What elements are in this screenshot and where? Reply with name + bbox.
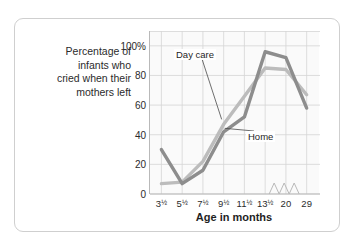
y-tick-label: 60 <box>135 100 146 111</box>
x-axis-title: Age in months <box>149 211 319 223</box>
figure-card: Percentage of infants who cried when the… <box>14 18 340 232</box>
y-axis-caption-line-1: Percentage of <box>23 45 131 59</box>
series-label-day-care: Day care <box>174 49 216 60</box>
y-tick-label: 20 <box>135 159 146 170</box>
x-tick-label: 29 <box>301 198 312 209</box>
y-axis-caption: Percentage of infants who cried when the… <box>23 45 131 99</box>
x-tick-label: 7½ <box>197 198 208 209</box>
x-tick-label: 3½ <box>156 198 167 209</box>
y-tick-label: 80 <box>135 70 146 81</box>
y-axis-caption-line-3: cried when their <box>23 72 131 86</box>
x-tick-label: 13½ <box>257 198 273 209</box>
y-axis-caption-line-4: mothers left <box>23 86 131 100</box>
series-label-home: Home <box>246 131 275 142</box>
x-tick-label: 5½ <box>177 198 188 209</box>
y-axis-caption-line-2: infants who <box>23 59 131 73</box>
plot-wrapper: Day care Home 100%806040200 3½5½7½9½11½1… <box>149 31 319 194</box>
y-tick-label: 40 <box>135 129 146 140</box>
y-tick-label: 0 <box>140 189 146 200</box>
x-tick-label: 11½ <box>237 198 253 209</box>
x-tick-label: 9½ <box>218 198 229 209</box>
plot-area: Day care Home 100%806040200 3½5½7½9½11½1… <box>149 31 319 194</box>
y-tick-label: 100% <box>120 40 146 51</box>
x-tick-label: 20 <box>281 198 292 209</box>
